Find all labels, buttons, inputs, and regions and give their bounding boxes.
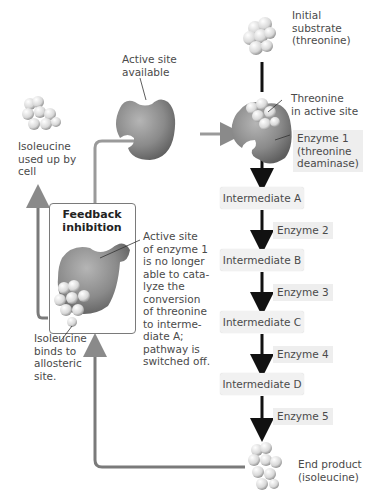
threonine-active-site-label: Threonine in active site xyxy=(291,92,358,117)
isoleucine-used-label: Isoleucine used up by cell xyxy=(18,140,76,178)
active-site-blocked-label: Active site of enzyme 1 is no longer abl… xyxy=(143,230,210,368)
enzyme1-label: Enzyme 1 (threonine deaminase) xyxy=(293,130,363,172)
active-site-available-label: Active site available xyxy=(122,53,177,78)
isoleucine-binds-label: Isoleucine binds to allosteric site. xyxy=(34,332,87,382)
enzyme3-label: Enzyme 3 xyxy=(273,284,333,301)
initial-substrate-label: Initial substrate (threonine) xyxy=(292,9,351,47)
intermediate-b: Intermediate B xyxy=(220,249,304,271)
enzyme5-label: Enzyme 5 xyxy=(273,408,333,425)
intermediate-c: Intermediate C xyxy=(220,311,304,333)
inhibited-enzyme-icon xyxy=(54,240,140,342)
enzyme4-label: Enzyme 4 xyxy=(273,346,333,363)
intermediate-d: Intermediate D xyxy=(220,373,304,395)
intermediate-a: Intermediate A xyxy=(220,187,304,209)
enzyme2-label: Enzyme 2 xyxy=(273,222,333,239)
end-product-label: End product (isoleucine) xyxy=(298,458,362,483)
